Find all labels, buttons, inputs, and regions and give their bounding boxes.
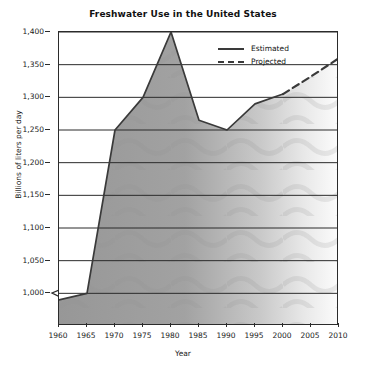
x-axis-tick: [198, 323, 199, 327]
y-axis-tick-label: 1,250: [23, 125, 44, 134]
y-axis-tick-label: 1,300: [23, 92, 44, 101]
legend-item-projected: Projected: [218, 55, 289, 68]
y-axis-tick-label: 1,150: [23, 190, 44, 199]
x-axis-tick: [170, 323, 171, 327]
x-axis-tick: [282, 323, 283, 327]
legend-dashed-line-icon: [218, 61, 244, 63]
plot-area: [58, 31, 338, 325]
x-axis-tick-label: 1990: [216, 331, 235, 340]
y-axis-tick-label: 1,050: [23, 255, 44, 264]
area-fill: [59, 32, 338, 325]
x-axis-tick-label: 1960: [48, 331, 67, 340]
legend-solid-line-icon: [218, 48, 244, 50]
x-axis: 1960196519701975198019851990199520002005…: [0, 327, 366, 347]
y-axis-tick-label: 1,200: [23, 157, 44, 166]
x-axis-tick-label: 2005: [300, 331, 319, 340]
legend-item-estimated: Estimated: [218, 42, 289, 55]
y-axis-tick-label: 1,400: [23, 27, 44, 36]
y-axis-tick-label: 1,350: [23, 59, 44, 68]
x-axis-tick-label: 2000: [272, 331, 291, 340]
x-axis-tick: [226, 323, 227, 327]
x-axis-tick-label: 2010: [328, 331, 347, 340]
chart-container: Freshwater Use in the United States Bill…: [0, 0, 366, 370]
x-axis-tick-label: 1995: [244, 331, 263, 340]
chart-plot-svg: [59, 32, 338, 325]
y-axis-title: Billions of liters per day: [14, 75, 23, 235]
legend-label-estimated: Estimated: [251, 44, 289, 53]
y-axis-tick: [45, 194, 50, 195]
x-axis-tick-label: 1970: [104, 331, 123, 340]
x-axis-tick: [58, 323, 59, 327]
x-axis-tick-label: 1965: [76, 331, 95, 340]
y-axis-tick: [45, 162, 50, 163]
x-axis-tick-label: 1980: [160, 331, 179, 340]
x-axis-tick: [142, 323, 143, 327]
y-axis-tick: [45, 260, 50, 261]
y-axis-tick: [45, 31, 50, 32]
y-axis-tick: [45, 227, 50, 228]
x-axis-tick: [254, 323, 255, 327]
y-axis-tick: [45, 96, 50, 97]
x-axis-tick-label: 1975: [132, 331, 151, 340]
x-axis-tick-label: 1985: [188, 331, 207, 340]
x-axis-tick: [310, 323, 311, 327]
x-axis-title: Year: [0, 349, 366, 358]
x-axis-tick: [86, 323, 87, 327]
x-axis-tick: [114, 323, 115, 327]
y-axis-tick-label: 1,000: [23, 288, 44, 297]
y-axis-tick: [45, 64, 50, 65]
legend-label-projected: Projected: [251, 57, 286, 66]
y-axis-tick-label: 1,100: [23, 223, 44, 232]
chart-legend: Estimated Projected: [218, 42, 289, 68]
y-axis-tick: [45, 129, 50, 130]
x-axis-tick: [338, 323, 339, 327]
y-axis: Billions of liters per day 1,0001,0501,1…: [0, 0, 56, 370]
